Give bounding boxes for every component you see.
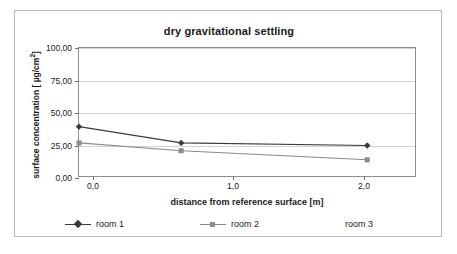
y-tick-label-50: 50,00 — [51, 108, 72, 118]
x-tick-label-2: 2,0 — [358, 181, 370, 191]
y-axis-title-text: surface concentration [ µg/cm — [31, 58, 41, 179]
legend-marker-diamond-icon — [65, 219, 91, 229]
x-tick-label-0: 0,0 — [87, 181, 99, 191]
figure-container: dry gravitational settling surface conce… — [0, 0, 457, 254]
y-tick-label-25: 25,00 — [51, 141, 72, 151]
legend-label-room-3: room 3 — [345, 219, 373, 229]
y-axis-title: surface concentration [ µg/cm2] — [29, 35, 41, 195]
legend-label-room-2: room 2 — [231, 219, 259, 229]
chart-frame: dry gravitational settling surface conce… — [14, 10, 442, 237]
x-tick-label-1: 1,0 — [227, 181, 239, 191]
chart-title: dry gravitational settling — [15, 25, 443, 37]
legend-marker-square-icon — [200, 219, 226, 229]
x-axis-title: distance from reference surface [m] — [78, 197, 416, 207]
series-plot — [79, 48, 417, 178]
caption-strip — [8, 241, 449, 252]
plot-area: 100,00 75,00 50,00 25,00 0,00 0,0 1,0 2,… — [78, 47, 416, 177]
y-tick-label-0: 0,00 — [55, 173, 72, 183]
y-axis-title-tail: ] — [31, 51, 41, 54]
legend-item-room-3[interactable]: room 3 — [345, 216, 373, 232]
y-tickmark-0 — [75, 178, 79, 179]
legend-item-room-2[interactable]: room 2 — [200, 216, 259, 232]
series-room-1-line — [79, 127, 367, 146]
legend-item-room-1[interactable]: room 1 — [65, 216, 124, 232]
y-tick-label-100: 100,00 — [46, 43, 72, 53]
y-axis-title-exponent: 2 — [29, 54, 36, 58]
chart-legend: room 1 room 2 room 3 — [55, 216, 415, 232]
y-tick-label-75: 75,00 — [51, 76, 72, 86]
legend-label-room-1: room 1 — [96, 219, 124, 229]
